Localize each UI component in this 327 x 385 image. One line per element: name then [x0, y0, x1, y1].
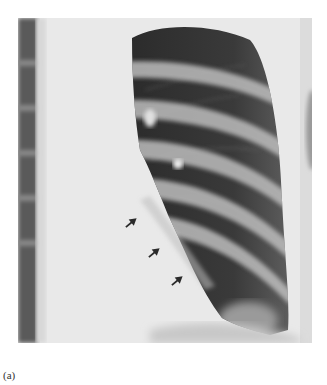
chest-xray-figure [18, 18, 312, 343]
figure-caption-label: (a) [3, 369, 15, 381]
xray-image [18, 18, 312, 343]
